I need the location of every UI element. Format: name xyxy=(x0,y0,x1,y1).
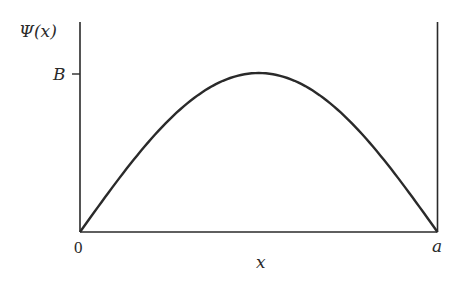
wavefunction-curve xyxy=(80,73,438,232)
x-tick-label-0: 0 xyxy=(74,239,83,256)
x-axis-label: x xyxy=(256,254,266,271)
y-axis-label: Ψ(x) xyxy=(19,23,57,40)
x-tick-label-a: a xyxy=(432,238,442,255)
wavefunction-plot xyxy=(0,0,453,285)
y-tick-label: B xyxy=(53,66,66,83)
